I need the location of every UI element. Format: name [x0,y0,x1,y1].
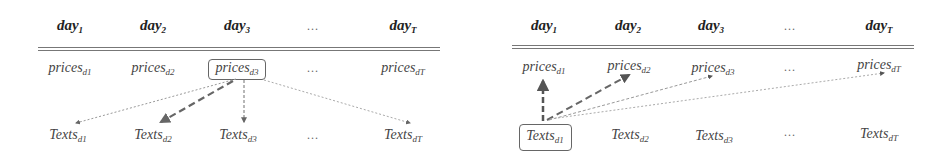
panel-left: day1 day2 day3 … dayT pricesd1 pricesd2 … [0,0,474,164]
arrows-right [474,0,948,164]
panel-right: day1 day2 day3 … dayT pricesd1 pricesd2 … [474,0,948,164]
arrow-texts-d1-to-prices-d3 [549,76,712,120]
arrow-prices-d3-to-texts-d1 [76,79,236,123]
arrow-texts-d1-to-prices-d2 [547,75,629,120]
arrow-prices-d3-to-texts-d2 [161,81,233,122]
arrow-prices-d3-to-texts-dT [264,80,410,123]
arrows-left [0,0,474,164]
arrow-texts-d1-to-prices-dT [550,73,884,119]
